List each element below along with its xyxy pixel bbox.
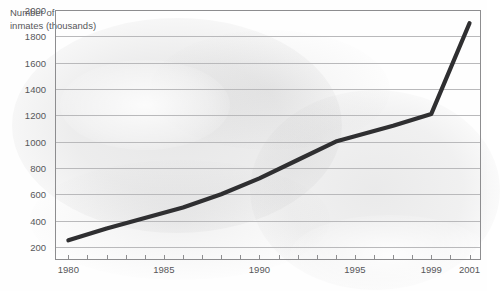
x-axis-tick-label: 2001	[459, 264, 480, 275]
y-axis-tick-label: 800	[8, 162, 46, 173]
x-axis-tick-label: 1985	[153, 264, 174, 275]
y-axis-tick-label: 1400	[8, 83, 46, 94]
x-axis-tick-label: 1999	[421, 264, 442, 275]
plot-area	[55, 10, 481, 260]
y-axis-tick-label: 400	[8, 215, 46, 226]
y-axis-tick-label: 1200	[8, 110, 46, 121]
plot-border	[56, 11, 481, 260]
y-axis-tick-label: 1800	[8, 31, 46, 42]
y-axis-tick-label: 200	[8, 241, 46, 252]
y-axis-tick-label: 2000	[8, 5, 46, 16]
y-axis-tick-label: 1000	[8, 136, 46, 147]
x-axis-tick-label: 1995	[344, 264, 365, 275]
y-axis-tick-label: 600	[8, 189, 46, 200]
data-line-inmates	[68, 23, 469, 240]
x-axis-tick-labels: 198019851990199519992001	[0, 264, 487, 280]
y-axis-tick-label: 1600	[8, 57, 46, 68]
x-axis-tick-label: 1980	[58, 264, 79, 275]
line-chart-svg	[55, 10, 481, 260]
gridlines	[55, 11, 481, 248]
y-axis-tick-labels: 200400600800100012001400160018002000	[6, 0, 46, 291]
x-axis-tick-label: 1990	[249, 264, 270, 275]
